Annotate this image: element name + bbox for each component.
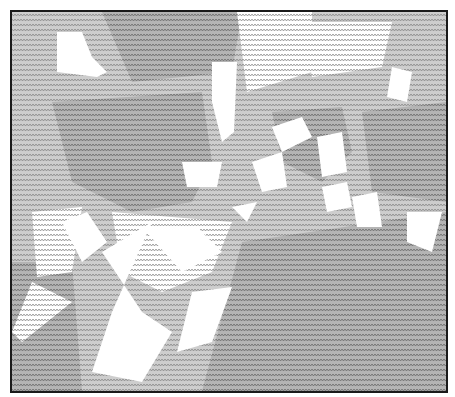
ascii-art-frame [10, 10, 448, 393]
ascii-art-canvas [12, 12, 446, 391]
